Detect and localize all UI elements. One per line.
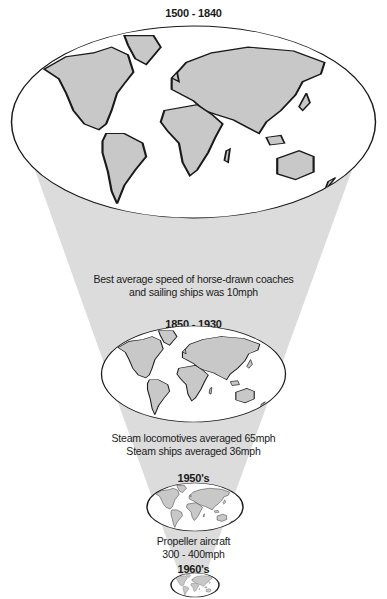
world-map-globe-tiny: [0, 0, 387, 599]
